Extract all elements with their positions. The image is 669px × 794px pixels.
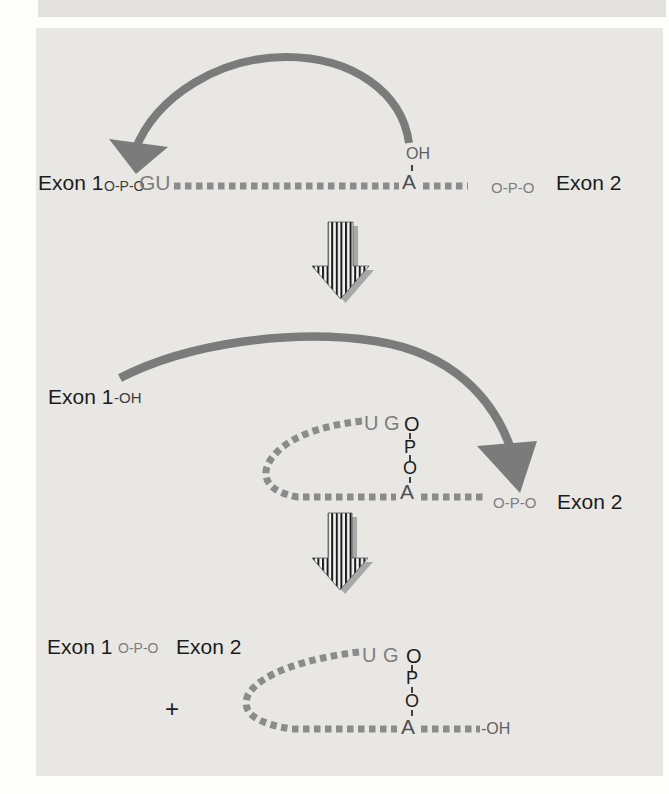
lariat2-o2-label: O bbox=[405, 692, 419, 710]
lariat2-hydroxyl-tail: -OH bbox=[481, 721, 510, 737]
lariat1-o1-label: O bbox=[404, 414, 420, 434]
top-page-strip bbox=[38, 0, 666, 17]
phosphate-right-step1: O-P-O bbox=[491, 180, 534, 195]
lariat1-u-label: U bbox=[364, 413, 378, 433]
lariat2-p-label: P bbox=[406, 669, 418, 687]
exon1-label-step1: Exon 1 bbox=[38, 172, 103, 193]
spliceosome-lariat-diagram: Exon 1 O-P-O GU OH A O-P-O Exon 2 Exon 1… bbox=[0, 0, 669, 794]
lariat2-o1-label: O bbox=[406, 646, 422, 666]
lariat2-branch-a-label: A bbox=[401, 716, 415, 737]
lariat1-branch-a-label: A bbox=[400, 481, 414, 502]
exon1-hydroxyl-suffix: -OH bbox=[114, 390, 142, 405]
exon1-label-step2: Exon 1 bbox=[48, 386, 113, 407]
lariat1-p-label: P bbox=[404, 438, 416, 456]
branch-point-a-step1: A bbox=[402, 171, 416, 192]
exon2-label-step2: Exon 2 bbox=[557, 491, 622, 512]
phosphate-step2: O-P-O bbox=[493, 495, 536, 510]
lariat2-u-label: U bbox=[362, 645, 376, 665]
exon1-label-step3: Exon 1 bbox=[47, 636, 112, 657]
lariat1-o2-label: O bbox=[403, 459, 417, 477]
exon2-label-step3: Exon 2 bbox=[176, 636, 241, 657]
phosphate-step3: O-P-O bbox=[118, 641, 158, 655]
lariat2-g-label: G bbox=[383, 645, 399, 665]
splice-donor-gu-label: GU bbox=[139, 172, 171, 193]
branch-hydroxyl-label: OH bbox=[406, 146, 430, 162]
lariat1-g-label: G bbox=[384, 413, 400, 433]
plus-sign: + bbox=[165, 697, 179, 721]
exon2-label-step1: Exon 2 bbox=[556, 172, 621, 193]
